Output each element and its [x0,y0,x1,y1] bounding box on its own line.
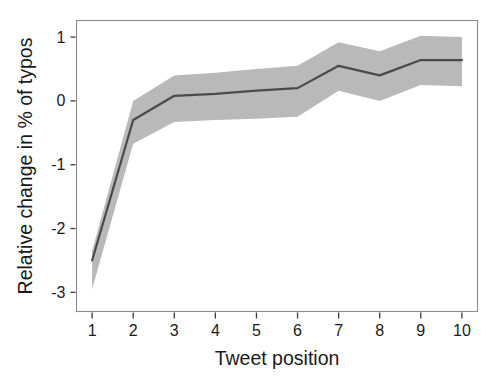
x-tick-label: 8 [375,322,384,339]
x-tick-label: 1 [88,322,97,339]
y-tick-label: -1 [51,156,65,173]
y-tick-label: 0 [57,92,66,109]
x-tick-label: 2 [129,322,138,339]
y-tick-label: -3 [51,284,65,301]
y-axis-title: Relative change in % of typos [14,37,36,294]
x-tick-label: 4 [211,322,220,339]
y-tick-label: -2 [51,220,65,237]
x-tick-label: 9 [416,322,425,339]
x-tick-label: 6 [293,322,302,339]
typos-by-tweet-position-chart: 10-1-2-3 12345678910 Tweet position Rela… [0,0,497,377]
x-tick-label: 7 [334,322,343,339]
x-tick-label: 10 [453,322,471,339]
x-tick-label: 5 [252,322,261,339]
x-tick-label: 3 [170,322,179,339]
y-tick-label: 1 [57,29,66,46]
x-axis-title: Tweet position [215,347,340,369]
